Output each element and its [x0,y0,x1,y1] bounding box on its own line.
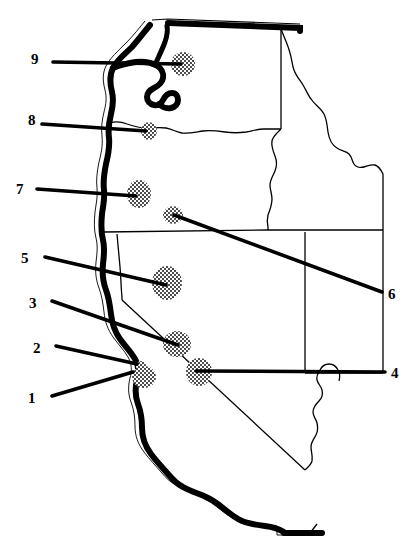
callout-label-8: 8 [28,113,36,128]
map-graphic [0,0,419,557]
callout-label-5: 5 [21,251,29,266]
leader-line-4 [196,371,385,372]
callout-label-4: 4 [391,366,399,381]
callout-label-9: 9 [31,52,39,67]
callout-label-1: 1 [28,391,36,406]
western-us-outline-map: 9 8 7 5 3 2 1 6 4 [0,0,419,557]
map-background [0,0,419,557]
leader-line-9 [53,62,181,64]
callout-label-7: 7 [16,182,24,197]
callout-label-2: 2 [33,341,41,356]
callout-label-6: 6 [388,287,396,302]
callout-label-3: 3 [29,296,37,311]
